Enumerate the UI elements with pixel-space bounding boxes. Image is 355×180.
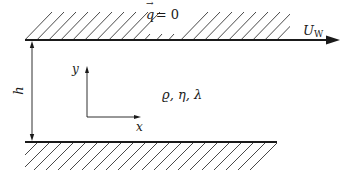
x-axis-label: x — [136, 121, 143, 133]
x-axis-arrowhead-icon — [134, 115, 141, 119]
y-axis-arrowhead-icon — [85, 66, 89, 73]
y-axis-label: y — [72, 63, 79, 75]
gap-height-label: h — [12, 86, 25, 94]
wall-velocity-label: UW — [303, 24, 323, 39]
fluid-properties-label: ϱ, η, λ — [162, 88, 202, 101]
coordinate-axes — [85, 66, 141, 119]
bottom-wall-hatching — [5, 142, 278, 175]
wall-velocity-arrowhead-icon — [326, 36, 340, 45]
gap-dimension-arrow — [30, 41, 34, 141]
top-wall-condition-label: q = 0 — [146, 8, 179, 21]
couette-flow-diagram: q = 0 UW h y x ϱ, η, λ — [0, 0, 355, 180]
